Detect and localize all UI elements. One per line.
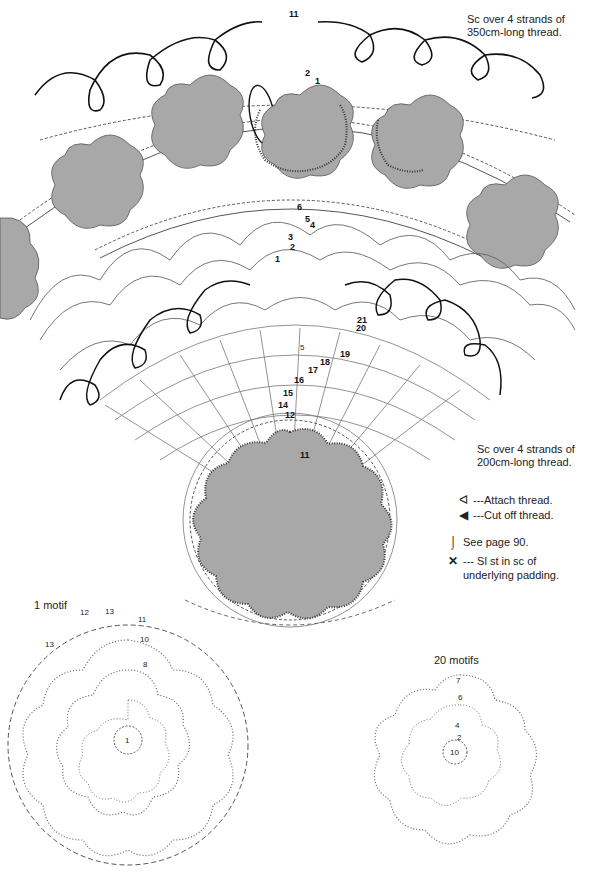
svg-text:2: 2 bbox=[290, 242, 295, 252]
svg-text:7: 7 bbox=[456, 676, 461, 685]
flower-motif-1 bbox=[52, 135, 144, 228]
flower-motif-4 bbox=[372, 95, 464, 188]
slip-stitch-icon: ✕ bbox=[446, 555, 460, 568]
legend-label: underlying padding. bbox=[463, 569, 559, 582]
svg-text:2: 2 bbox=[305, 68, 310, 78]
svg-text:15: 15 bbox=[283, 388, 293, 398]
flower-motif-2 bbox=[152, 75, 244, 168]
middle-loops bbox=[60, 267, 501, 405]
legend-slip-stitch-cont: underlying padding. bbox=[463, 569, 559, 582]
mid-annotation-line2: 200cm-long thread. bbox=[477, 456, 575, 469]
motif-20-label: 20 motifs bbox=[434, 654, 479, 667]
legend-attach-thread: ᐊ ---Attach thread. bbox=[456, 494, 552, 507]
svg-text:5: 5 bbox=[300, 343, 305, 352]
flower-motif-3 bbox=[262, 85, 354, 178]
mid-annotation: Sc over 4 strands of 200cm-long thread. bbox=[477, 443, 575, 469]
svg-text:12: 12 bbox=[285, 410, 295, 420]
motif-1-label: 1 motif bbox=[34, 599, 67, 612]
svg-text:1: 1 bbox=[125, 736, 130, 745]
svg-text:10: 10 bbox=[140, 635, 149, 644]
svg-text:1: 1 bbox=[275, 254, 280, 264]
svg-text:18: 18 bbox=[320, 357, 330, 367]
svg-text:14: 14 bbox=[278, 400, 288, 410]
see-page-icon: ⌡ bbox=[446, 536, 460, 549]
svg-text:12: 12 bbox=[80, 608, 89, 617]
legend-label: ---Attach thread. bbox=[473, 494, 552, 507]
svg-text:3: 3 bbox=[288, 232, 293, 242]
svg-text:13: 13 bbox=[105, 607, 114, 616]
svg-text:13: 13 bbox=[45, 640, 54, 649]
cut-thread-icon: ◀ bbox=[456, 509, 470, 522]
motif-20-chart: 10 7 6 4 2 bbox=[374, 675, 536, 844]
motif-1-chart: 1 12 13 11 10 13 8 bbox=[8, 607, 248, 865]
doily-chart: 1 2 3 4 5 6 5 20 21 19 18 17 16 15 14 12… bbox=[0, 0, 590, 873]
svg-text:16: 16 bbox=[294, 375, 304, 385]
legend-label: --- Sl st in sc of bbox=[463, 555, 536, 568]
center-flower bbox=[183, 413, 397, 627]
svg-text:11: 11 bbox=[138, 615, 147, 624]
svg-text:5: 5 bbox=[305, 214, 310, 224]
legend-label: ---Cut off thread. bbox=[473, 509, 554, 522]
top-annotation-line1: Sc over 4 strands of bbox=[467, 13, 565, 26]
svg-text:8: 8 bbox=[143, 660, 148, 669]
flower-motif-5 bbox=[467, 175, 559, 268]
legend-label: See page 90. bbox=[463, 536, 528, 549]
legend-slip-stitch: ✕ --- Sl st in sc of bbox=[446, 555, 536, 568]
svg-text:10: 10 bbox=[450, 748, 459, 757]
top-annotation: Sc over 4 strands of 350cm-long thread. bbox=[467, 13, 565, 39]
svg-text:1: 1 bbox=[315, 76, 320, 86]
svg-text:6: 6 bbox=[297, 202, 302, 212]
svg-text:2: 2 bbox=[457, 733, 462, 742]
svg-text:17: 17 bbox=[308, 365, 318, 375]
svg-text:6: 6 bbox=[458, 693, 463, 702]
svg-text:19: 19 bbox=[340, 349, 350, 359]
svg-text:4: 4 bbox=[455, 721, 460, 730]
legend-see-page: ⌡ See page 90. bbox=[446, 536, 528, 549]
flower-motif-partial bbox=[0, 218, 39, 319]
flower-motifs bbox=[0, 75, 558, 319]
svg-text:4: 4 bbox=[310, 220, 315, 230]
legend-cut-thread: ◀ ---Cut off thread. bbox=[456, 509, 554, 522]
svg-text:11: 11 bbox=[289, 9, 299, 19]
svg-text:11: 11 bbox=[300, 450, 310, 460]
top-annotation-line2: 350cm-long thread. bbox=[467, 26, 565, 39]
mid-annotation-line1: Sc over 4 strands of bbox=[477, 443, 575, 456]
svg-text:21: 21 bbox=[357, 315, 367, 325]
attach-thread-icon: ᐊ bbox=[456, 494, 470, 507]
